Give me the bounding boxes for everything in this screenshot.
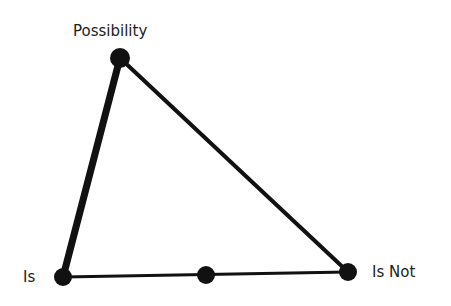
label-is: Is	[23, 268, 35, 286]
label-is-not: Is Not	[372, 263, 415, 281]
node-is	[54, 268, 72, 286]
triangle-diagram	[0, 0, 451, 306]
edge-possibility-is-not	[120, 58, 348, 272]
node-possibility	[110, 48, 130, 68]
label-possibility: Possibility	[73, 22, 147, 40]
node-midpoint	[197, 266, 215, 284]
edge-possibility-is	[63, 58, 120, 277]
node-is-not	[339, 263, 357, 281]
